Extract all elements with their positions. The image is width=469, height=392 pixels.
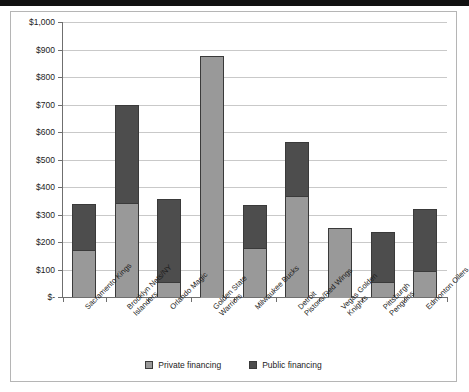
chart-frame: $-$100$200$300$400$500$600$700$800$900$1… bbox=[10, 11, 457, 382]
plot-region: $-$100$200$300$400$500$600$700$800$900$1… bbox=[62, 22, 446, 307]
legend-swatch-icon bbox=[249, 361, 257, 369]
legend-swatch-icon bbox=[145, 361, 153, 369]
y-axis-tick bbox=[58, 22, 63, 23]
x-axis-tick bbox=[447, 297, 448, 302]
bar-segment-public-financing bbox=[73, 205, 95, 251]
bar-segment-private-financing bbox=[201, 57, 223, 298]
y-axis-tick bbox=[58, 105, 63, 106]
y-axis-tick-label: $100 bbox=[36, 265, 55, 275]
y-axis-tick bbox=[58, 270, 63, 271]
y-axis-tick bbox=[58, 187, 63, 188]
x-axis-tick bbox=[191, 297, 192, 302]
gridline bbox=[63, 22, 447, 23]
stacked-bar[interactable] bbox=[72, 204, 96, 298]
x-axis-tick bbox=[276, 297, 277, 302]
top-black-band bbox=[0, 0, 469, 6]
y-axis-tick bbox=[58, 215, 63, 216]
y-axis-tick-label: $600 bbox=[36, 127, 55, 137]
y-axis-tick-label: $1,000 bbox=[29, 17, 55, 27]
y-axis-tick bbox=[58, 160, 63, 161]
y-axis-tick-label: $800 bbox=[36, 72, 55, 82]
x-axis-tick bbox=[63, 297, 64, 302]
y-axis-tick-label: $300 bbox=[36, 210, 55, 220]
y-axis-tick bbox=[58, 77, 63, 78]
y-axis-tick-label: $200 bbox=[36, 237, 55, 247]
bar-segment-public-financing bbox=[244, 206, 266, 249]
bar-segment-private-financing bbox=[116, 204, 138, 298]
bar-segment-public-financing bbox=[116, 106, 138, 204]
legend-label: Private financing bbox=[158, 360, 221, 370]
y-axis-tick-label: $- bbox=[47, 292, 55, 302]
stacked-bar[interactable] bbox=[413, 209, 437, 297]
bar-segment-public-financing bbox=[286, 143, 308, 197]
gridline bbox=[63, 77, 447, 78]
legend-item[interactable]: Public financing bbox=[249, 360, 322, 370]
bar-segment-private-financing bbox=[286, 197, 308, 297]
y-axis-tick bbox=[58, 50, 63, 51]
legend-item[interactable]: Private financing bbox=[145, 360, 221, 370]
chart-legend: Private financingPublic financing bbox=[11, 360, 456, 370]
gridline bbox=[63, 50, 447, 51]
bar-segment-private-financing bbox=[73, 251, 95, 297]
y-axis-tick-label: $900 bbox=[36, 45, 55, 55]
y-axis-tick-label: $400 bbox=[36, 182, 55, 192]
y-axis-tick-label: $500 bbox=[36, 155, 55, 165]
x-axis-tick bbox=[106, 297, 107, 302]
bar-segment-public-financing bbox=[414, 210, 436, 272]
y-axis-tick-label: $700 bbox=[36, 100, 55, 110]
stacked-bar[interactable] bbox=[200, 56, 224, 297]
y-axis-tick bbox=[58, 242, 63, 243]
y-axis-tick bbox=[58, 132, 63, 133]
legend-label: Public financing bbox=[262, 360, 322, 370]
plot-area: $-$100$200$300$400$500$600$700$800$900$1… bbox=[62, 22, 447, 298]
